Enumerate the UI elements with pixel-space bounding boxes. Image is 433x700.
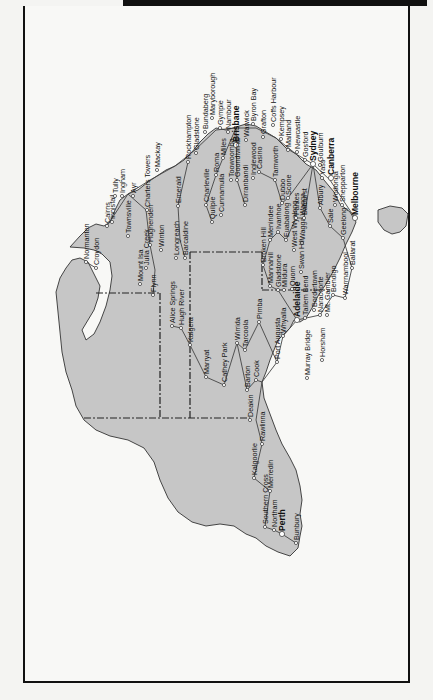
- city-label: Barcaldine: [181, 221, 190, 255]
- city-label: Melbourne: [350, 172, 360, 215]
- australia-rail-map: CairnsInnisfailTullyInghamTownsvilleAyrC…: [0, 0, 433, 700]
- city-label: Longreach: [172, 221, 181, 255]
- station-marker: [151, 293, 154, 296]
- city-label: Flynn: [149, 274, 158, 292]
- city-label: Rawlinna: [258, 411, 267, 441]
- city-label: Hugh River: [177, 288, 186, 325]
- station-marker: [286, 148, 289, 151]
- station-marker: [243, 348, 246, 351]
- station-marker: [244, 138, 247, 141]
- station-marker: [183, 256, 186, 259]
- station-marker: [110, 220, 113, 223]
- station-marker: [210, 116, 213, 119]
- station-marker: [174, 256, 177, 259]
- station-marker: [159, 248, 162, 251]
- city-label: Kalgoorlie: [250, 443, 259, 475]
- city-label: Charters Towers: [143, 154, 152, 207]
- station-marker: [243, 203, 246, 206]
- station-marker: [318, 313, 321, 316]
- station-marker: [204, 375, 207, 378]
- station-marker: [257, 170, 260, 173]
- station-marker: [276, 288, 279, 291]
- station-marker: [286, 196, 289, 199]
- city-label: Dirranbandi: [241, 164, 250, 202]
- city-label: Casino: [255, 147, 264, 169]
- station-marker: [268, 284, 271, 287]
- city-label: Ayr: [129, 182, 138, 193]
- city-label: Winton: [157, 225, 166, 247]
- city-label: Horsham: [318, 328, 327, 357]
- station-marker: [294, 216, 297, 219]
- station-marker: [280, 201, 283, 204]
- station-marker: [328, 224, 331, 227]
- station-marker: [131, 194, 134, 197]
- station-marker: [340, 203, 343, 206]
- station-marker: [294, 541, 297, 544]
- city-label: Marryat: [202, 350, 211, 374]
- city-label: Grafton: [259, 110, 268, 134]
- city-label: Warrnambool: [341, 252, 350, 295]
- city-label: Cook: [252, 360, 261, 377]
- city-label: Tailem Bend: [301, 275, 310, 315]
- city-label: Bunbury: [292, 513, 301, 540]
- station-marker: [188, 343, 191, 346]
- station-marker: [170, 324, 173, 327]
- station-marker: [186, 160, 189, 163]
- station-marker: [312, 308, 315, 311]
- city-label: Goulburn: [316, 132, 325, 162]
- station-marker: [272, 528, 275, 531]
- station-marker: [260, 442, 263, 445]
- station-marker: [305, 376, 308, 379]
- station-marker: [263, 525, 266, 528]
- station-marker: [251, 122, 254, 125]
- city-label: Toowoomba: [227, 138, 236, 177]
- city-label: Ingham: [118, 169, 127, 193]
- station-marker: [333, 203, 336, 206]
- station-marker: [279, 531, 284, 536]
- station-marker: [341, 236, 344, 239]
- city-label: Emerald: [174, 176, 183, 203]
- station-marker: [292, 248, 295, 251]
- city-label: Geelong: [339, 208, 348, 235]
- station-marker: [276, 230, 279, 233]
- city-label: Brisbane: [231, 105, 241, 142]
- station-marker: [113, 194, 116, 197]
- city-label: Canberra: [326, 137, 336, 175]
- station-marker: [295, 150, 298, 153]
- station-marker: [229, 178, 232, 181]
- station-marker: [294, 317, 299, 322]
- station-marker: [303, 316, 306, 319]
- station-marker: [310, 161, 315, 166]
- station-marker: [320, 176, 323, 179]
- city-label: Quilpie: [208, 197, 217, 219]
- station-marker: [290, 287, 293, 290]
- station-marker: [299, 270, 302, 273]
- station-marker: [273, 178, 276, 181]
- city-label: Murray Bridge: [303, 330, 312, 375]
- city-label: Pimba: [255, 299, 264, 319]
- city-label: Shepparton: [338, 165, 347, 202]
- station-marker: [251, 176, 254, 179]
- station-marker: [325, 313, 328, 316]
- station-marker: [268, 238, 271, 241]
- station-marker: [275, 360, 278, 363]
- city-label: Sale: [326, 209, 335, 223]
- station-marker: [320, 358, 323, 361]
- city-label: Bordertown: [310, 270, 319, 307]
- station-marker: [235, 341, 238, 344]
- city-label: Miles: [219, 138, 228, 155]
- city-label: Deakin: [246, 395, 255, 417]
- city-label: Maitland: [284, 120, 293, 147]
- station-marker: [303, 158, 306, 161]
- station-marker: [126, 234, 129, 237]
- station-marker: [194, 151, 197, 154]
- station-marker: [282, 288, 285, 291]
- city-label: Port Augusta: [273, 318, 282, 359]
- city-label: Alice Springs: [168, 281, 177, 323]
- city-label: Barton: [243, 366, 252, 387]
- city-label: Albury: [316, 184, 325, 205]
- city-label: Perth: [277, 509, 287, 531]
- station-marker: [261, 263, 264, 266]
- station-marker: [221, 156, 224, 159]
- city-label: Cathey Park: [220, 342, 229, 382]
